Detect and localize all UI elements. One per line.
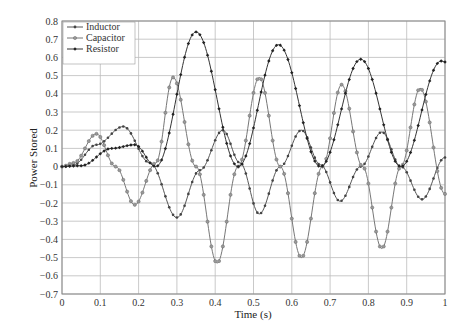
circle-marker-icon <box>73 36 76 39</box>
x-tick-label: 0 <box>60 297 65 308</box>
svg-text:Capacitor: Capacitor <box>86 32 126 43</box>
dot-marker-icon <box>74 26 77 29</box>
y-tick-label: −0.1 <box>40 179 58 190</box>
x-tick-label: 0.8 <box>362 297 375 308</box>
y-tick-label: 0.1 <box>46 143 59 154</box>
y-tick-label: −0.5 <box>40 252 58 263</box>
x-tick-label: 0.4 <box>209 297 222 308</box>
svg-text:Resistor: Resistor <box>86 43 119 54</box>
x-tick-label: 0.9 <box>400 297 413 308</box>
x-tick-label: 0.1 <box>94 297 107 308</box>
legend: Inductor Capacitor Resistor <box>63 21 135 64</box>
x-tick-label: 0.3 <box>171 297 184 308</box>
y-tick-label: 0.3 <box>46 107 59 118</box>
y-tick-label: −0.3 <box>40 216 58 227</box>
y-tick-label: −0.7 <box>40 289 58 300</box>
x-tick-label: 0.2 <box>132 297 145 308</box>
svg-text:Inductor: Inductor <box>86 21 121 32</box>
y-tick-label: 0 <box>53 161 58 172</box>
y-tick-label: −0.6 <box>40 270 58 281</box>
y-tick-label: −0.2 <box>40 198 58 209</box>
y-tick-label: 0.5 <box>46 70 59 81</box>
x-tick-label: 0.7 <box>324 297 337 308</box>
y-tick-label: 0.6 <box>46 52 59 63</box>
x-tick-label: 0.6 <box>286 297 299 308</box>
x-axis-label: Time (s) <box>234 308 272 321</box>
x-tick-label: 0.5 <box>247 297 260 308</box>
y-axis-ticks: 0.80.70.60.50.40.30.20.10−0.1−0.2−0.3−0.… <box>40 16 58 300</box>
y-tick-label: −0.4 <box>40 234 58 245</box>
y-axis-label: Power Stored <box>27 128 39 188</box>
y-tick-label: 0.2 <box>46 125 59 136</box>
y-tick-label: 0.4 <box>46 88 59 99</box>
x-axis-ticks: 00.10.20.30.40.50.60.70.80.91 <box>60 297 448 308</box>
power-stored-chart: 0.80.70.60.50.40.30.20.10−0.1−0.2−0.3−0.… <box>0 0 469 331</box>
y-tick-label: 0.8 <box>46 16 59 27</box>
x-tick-label: 1 <box>443 297 448 308</box>
y-tick-label: 0.7 <box>46 34 59 45</box>
